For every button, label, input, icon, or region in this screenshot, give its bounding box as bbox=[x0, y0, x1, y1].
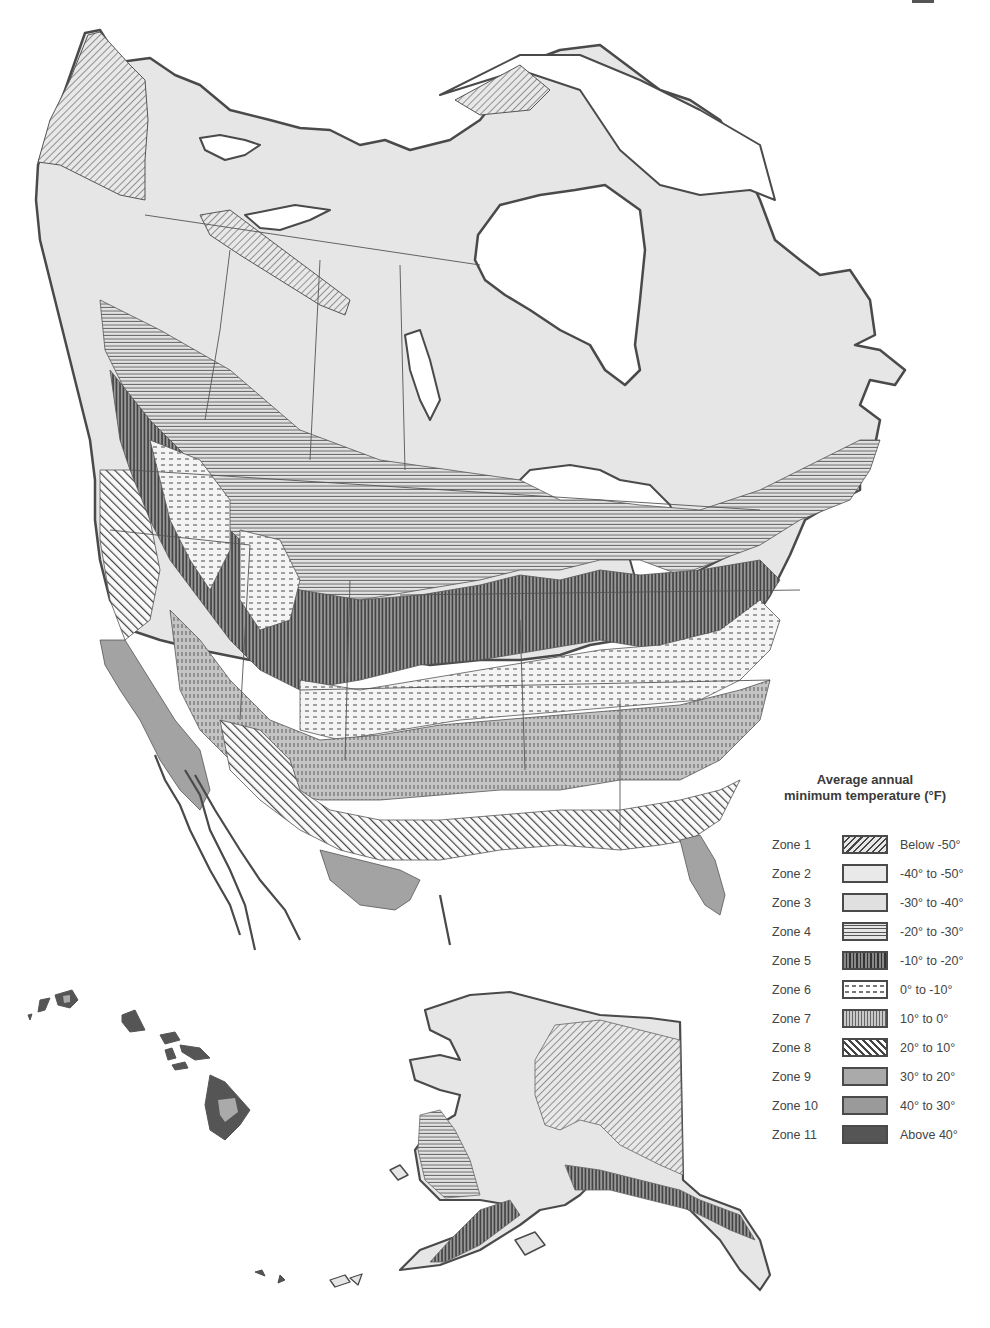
zone-range: -20° to -30° bbox=[900, 925, 964, 939]
zone-9-swatch bbox=[842, 1067, 888, 1086]
zone-label: Zone 1 bbox=[760, 838, 842, 852]
zone-label: Zone 10 bbox=[760, 1099, 842, 1113]
legend-row-zone-8: Zone 820° to 10° bbox=[760, 1033, 990, 1062]
legend-row-zone-3: Zone 3-30° to -40° bbox=[760, 888, 990, 917]
zone-6-swatch bbox=[842, 980, 888, 999]
zone-range: 30° to 20° bbox=[900, 1070, 955, 1084]
legend-row-zone-5: Zone 5-10° to -20° bbox=[760, 946, 990, 975]
zone-5-swatch bbox=[842, 951, 888, 970]
legend-row-zone-6: Zone 60° to -10° bbox=[760, 975, 990, 1004]
zone-range: -30° to -40° bbox=[900, 896, 964, 910]
zone-1-swatch bbox=[842, 835, 888, 854]
zone-range: 10° to 0° bbox=[900, 1012, 948, 1026]
zone-label: Zone 3 bbox=[760, 896, 842, 910]
zone-label: Zone 8 bbox=[760, 1041, 842, 1055]
zone-label: Zone 4 bbox=[760, 925, 842, 939]
zone-11-swatch bbox=[842, 1125, 888, 1144]
legend-row-zone-1: Zone 1Below -50° bbox=[760, 830, 990, 859]
zone-label: Zone 5 bbox=[760, 954, 842, 968]
zone-4-swatch bbox=[842, 922, 888, 941]
zone-7-swatch bbox=[842, 1009, 888, 1028]
zone-range: 20° to 10° bbox=[900, 1041, 955, 1055]
legend-row-zone-10: Zone 1040° to 30° bbox=[760, 1091, 990, 1120]
page-corner-mark bbox=[912, 0, 934, 3]
alaska-inset bbox=[255, 992, 770, 1290]
zone-10-swatch bbox=[842, 1096, 888, 1115]
zone-label: Zone 7 bbox=[760, 1012, 842, 1026]
legend-row-zone-9: Zone 930° to 20° bbox=[760, 1062, 990, 1091]
zone-2-swatch bbox=[842, 864, 888, 883]
zone-range: -40° to -50° bbox=[900, 867, 964, 881]
legend-title-line2: minimum temperature (°F) bbox=[760, 788, 970, 804]
zone-label: Zone 9 bbox=[760, 1070, 842, 1084]
legend-rows: Zone 1Below -50° Zone 2-40° to -50° Zone… bbox=[760, 830, 990, 1149]
hawaii-inset bbox=[28, 990, 250, 1140]
zone-range: 0° to -10° bbox=[900, 983, 952, 997]
legend-row-zone-7: Zone 710° to 0° bbox=[760, 1004, 990, 1033]
zone-label: Zone 11 bbox=[760, 1128, 842, 1142]
zone-range: -10° to -20° bbox=[900, 954, 964, 968]
legend-title-line1: Average annual bbox=[760, 772, 970, 788]
zone-3-swatch bbox=[842, 893, 888, 912]
legend-title: Average annual minimum temperature (°F) bbox=[760, 772, 970, 804]
zone-label: Zone 2 bbox=[760, 867, 842, 881]
zone-range: Above 40° bbox=[900, 1128, 958, 1142]
legend-row-zone-11: Zone 11Above 40° bbox=[760, 1120, 990, 1149]
zone-range: Below -50° bbox=[900, 838, 961, 852]
zone-label: Zone 6 bbox=[760, 983, 842, 997]
legend-row-zone-2: Zone 2-40° to -50° bbox=[760, 859, 990, 888]
zone-range: 40° to 30° bbox=[900, 1099, 955, 1113]
legend-row-zone-4: Zone 4-20° to -30° bbox=[760, 917, 990, 946]
legend: Average annual minimum temperature (°F) … bbox=[760, 772, 990, 1149]
zone-8-swatch bbox=[842, 1038, 888, 1057]
